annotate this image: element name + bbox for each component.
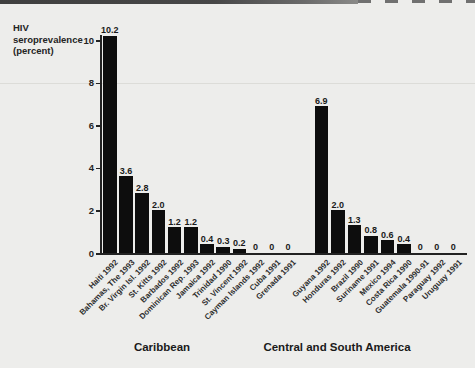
chart-bar <box>103 36 117 253</box>
y-axis-line <box>100 35 102 255</box>
y-tick-label: 2 <box>74 205 94 216</box>
y-axis-title-line2: seroprevalence <box>13 34 83 46</box>
bar-chart: HIV seroprevalence (percent) 024681010.2… <box>0 0 475 368</box>
y-tick-mark <box>96 168 100 170</box>
bar-value-label: 6.9 <box>306 96 336 106</box>
group-label-caribbean: Caribbean <box>92 341 232 353</box>
y-tick-mark <box>96 40 100 42</box>
bar-value-label: 0 <box>273 242 303 252</box>
group-label-central-south-america: Central and South America <box>237 341 437 353</box>
bar-value-label: 1.3 <box>339 215 369 225</box>
y-tick-mark <box>96 83 100 85</box>
y-tick-label: 0 <box>74 248 94 259</box>
y-tick-mark <box>96 253 100 255</box>
bar-value-label: 10.2 <box>95 25 125 35</box>
x-axis-line <box>100 253 467 255</box>
bar-value-label: 3.6 <box>111 166 141 176</box>
scan-artifact-top-right <box>358 0 475 3</box>
y-tick-label: 6 <box>74 120 94 131</box>
y-axis-title-line1: HIV <box>13 22 83 34</box>
chart-bar <box>315 106 329 253</box>
y-tick-label: 8 <box>74 77 94 88</box>
y-tick-mark <box>96 125 100 127</box>
bar-value-label: 0 <box>438 242 468 252</box>
y-tick-mark <box>96 210 100 212</box>
bar-value-label: 2.8 <box>127 183 157 193</box>
bar-value-label: 2.0 <box>143 200 173 210</box>
chart-bar <box>168 227 182 253</box>
scan-artifact-line <box>0 83 475 84</box>
bar-value-label: 2.0 <box>323 200 353 210</box>
y-tick-label: 10 <box>74 35 94 46</box>
y-axis-title: HIV seroprevalence (percent) <box>13 22 83 57</box>
bar-value-label: 1.2 <box>176 217 206 227</box>
y-tick-label: 4 <box>74 162 94 173</box>
scan-artifact-top <box>0 0 358 4</box>
y-axis-title-line3: (percent) <box>13 45 83 57</box>
